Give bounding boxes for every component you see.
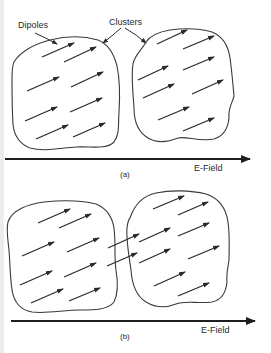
clusters-label: Clusters bbox=[109, 17, 143, 27]
cluster-outline-right-a bbox=[132, 29, 234, 142]
dipoles-label: Dipoles bbox=[18, 20, 49, 30]
dipoles-right-b bbox=[139, 196, 219, 296]
cluster-outline-left-a bbox=[12, 37, 120, 150]
dipole-cluster-diagram: Dipoles Clusters bbox=[0, 0, 271, 353]
e-field-label-b: E-Field bbox=[201, 325, 230, 335]
clusters-leader-arrow-left bbox=[103, 28, 121, 43]
panel-caption-b: (b) bbox=[120, 332, 130, 341]
dipoles-leader-arrow bbox=[35, 33, 57, 44]
panel-b: E-Field (b) bbox=[7, 191, 255, 341]
panel-caption-a: (a) bbox=[120, 170, 130, 179]
cluster-outline-left-b bbox=[7, 201, 117, 313]
clusters-leader-arrow-right bbox=[125, 28, 146, 43]
e-field-label-a: E-Field bbox=[194, 163, 223, 173]
dipoles-left-a bbox=[25, 43, 105, 139]
panel-a: Dipoles Clusters bbox=[5, 17, 250, 179]
dipoles-bridging-b bbox=[107, 234, 139, 266]
dipoles-right-a bbox=[138, 30, 223, 131]
dipoles-left-b bbox=[20, 209, 100, 303]
